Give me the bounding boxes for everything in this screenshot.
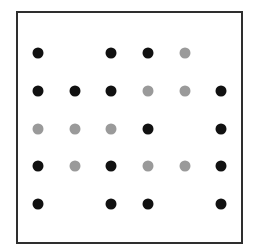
black-dot [216,161,227,172]
black-dot [33,86,44,97]
black-dot [216,86,227,97]
black-dot [106,86,117,97]
grid-frame [16,11,243,244]
gray-dot [143,161,154,172]
gray-dot [70,124,81,135]
black-dot [106,48,117,59]
gray-dot [180,161,191,172]
black-dot [106,199,117,210]
black-dot [216,124,227,135]
black-dot [33,161,44,172]
black-dot [216,199,227,210]
black-dot [143,124,154,135]
black-dot [33,199,44,210]
black-dot [143,199,154,210]
gray-dot [143,86,154,97]
gray-dot [70,161,81,172]
black-dot [106,161,117,172]
black-dot [70,86,81,97]
gray-dot [106,124,117,135]
black-dot [143,48,154,59]
gray-dot [180,86,191,97]
gray-dot [180,48,191,59]
gray-dot [33,124,44,135]
black-dot [33,48,44,59]
